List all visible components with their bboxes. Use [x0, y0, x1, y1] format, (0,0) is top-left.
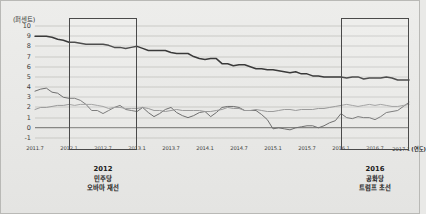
chart-figure: (퍼센트) 109876543210-12011.72012.12012.720…: [1, 1, 419, 213]
x-axis-tick-label: 2016.1: [332, 145, 350, 151]
x-axis-unit-label: (연도): [411, 146, 425, 152]
x-axis-tick-label: 2014.7: [230, 145, 248, 151]
x-axis-tick-label: 2015.1: [264, 145, 282, 151]
y-axis-tick-label: 2: [27, 103, 31, 111]
y-axis-tick-label: 5: [27, 73, 31, 81]
annotation-election-2012: 2012민주당오바마 재선: [87, 164, 119, 194]
y-axis-tick-label: 1: [27, 114, 31, 122]
annotation-party: 민주당: [87, 175, 119, 185]
x-axis-tick-label: 2014.1: [196, 145, 214, 151]
annotation-election-2016: 2016공화당트럼프 초선: [359, 164, 391, 194]
annotation-event: 오바마 재선: [87, 184, 119, 194]
series-container: [35, 26, 409, 138]
annotation-year: 2016: [359, 164, 391, 175]
x-axis-tick-label: 2011.7: [26, 145, 44, 151]
y-axis-tick-label: -1: [25, 134, 31, 142]
plot-area: 109876543210-12011.72012.12012.72013.120…: [35, 26, 409, 138]
x-axis-tick-label: 2016.7: [366, 145, 384, 151]
y-axis-tick-label: 7: [27, 53, 31, 61]
x-axis-tick-label: 2013.7: [162, 145, 180, 151]
y-axis-tick-label: 6: [27, 63, 31, 71]
y-axis-tick-label: 3: [27, 93, 31, 101]
series-line: [35, 36, 409, 80]
x-axis-tick-label: 2012.1: [60, 145, 78, 151]
annotation-year: 2012: [87, 164, 119, 175]
y-axis-tick-label: 9: [27, 32, 31, 40]
y-axis-tick-label: 4: [27, 83, 31, 91]
x-axis-tick-label: 2013.1: [128, 145, 146, 151]
annotation-event: 트럼프 초선: [359, 184, 391, 194]
y-axis-tick-label: 10: [23, 22, 31, 30]
y-axis-tick-label: 0: [27, 124, 31, 132]
x-axis-tick-label: 2015.7: [298, 145, 316, 151]
annotation-party: 공화당: [359, 175, 391, 185]
x-axis-tick-label: 2012.7: [94, 145, 112, 151]
y-axis-tick-label: 8: [27, 42, 31, 50]
x-axis-tick-label: 2017.1(연도): [392, 145, 425, 152]
